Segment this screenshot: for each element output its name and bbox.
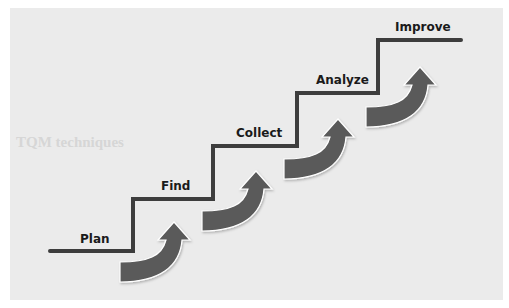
growth-arrow-icon [284, 119, 354, 179]
staircase-diagram [0, 0, 509, 308]
step-label-collect: Collect [236, 126, 282, 140]
step-label-plan: Plan [80, 232, 110, 246]
step-label-improve: Improve [395, 20, 451, 34]
step-label-analyze: Analyze [316, 73, 369, 87]
step-label-find: Find [161, 179, 190, 193]
staircase-line [50, 40, 461, 251]
